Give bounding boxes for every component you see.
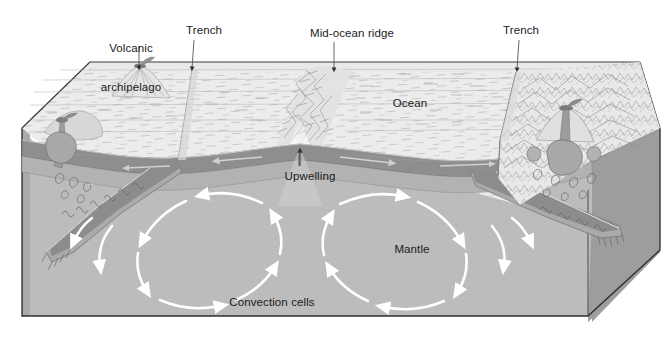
label-trench-left: Trench: [186, 24, 222, 37]
label-trench-right: Trench: [503, 24, 539, 37]
magma-pocket-right-b: [587, 147, 601, 162]
label-mantle: Mantle: [394, 243, 429, 256]
label-upwelling: Upwelling: [285, 170, 336, 183]
magma-pocket-right-a: [527, 147, 541, 162]
magma-chamber-right: [547, 140, 582, 175]
label-volcanic-archipelago-line1: Volcanic: [101, 42, 162, 55]
diagram-canvas: Volcanic archipelago Trench Mid-ocean ri…: [0, 0, 666, 344]
label-ocean: Ocean: [393, 97, 427, 110]
magma-chamber-left: [46, 132, 77, 163]
label-volcanic-archipelago: Volcanic archipelago: [101, 16, 162, 107]
label-volcanic-archipelago-line2: archipelago: [101, 81, 162, 94]
label-mid-ocean-ridge: Mid-ocean ridge: [310, 27, 394, 40]
label-convection-cells: Convection cells: [229, 296, 314, 309]
